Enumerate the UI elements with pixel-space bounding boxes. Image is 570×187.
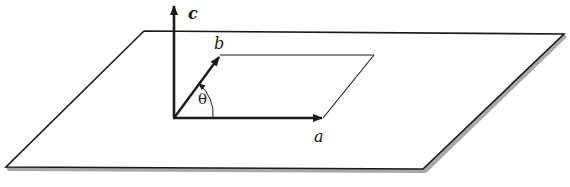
label-b: b: [214, 34, 224, 53]
lattice-diagram: c b a θ: [0, 0, 570, 187]
plane: [6, 31, 564, 169]
label-a: a: [314, 127, 324, 146]
label-c: c: [188, 4, 198, 23]
label-theta: θ: [198, 90, 207, 108]
